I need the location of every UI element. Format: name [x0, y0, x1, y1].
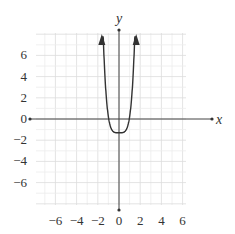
svg-text:−2: −2	[91, 213, 105, 228]
svg-text:−2: −2	[13, 132, 27, 147]
axes	[28, 28, 213, 211]
tick-labels: −6−4−202466420−2−4−6	[13, 47, 186, 228]
y-axis-label: y	[114, 11, 123, 26]
svg-text:−6: −6	[13, 175, 27, 190]
function-graph: −6−4−202466420−2−4−6 x y	[0, 0, 235, 234]
svg-text:−4: −4	[70, 213, 84, 228]
svg-text:6: 6	[179, 213, 186, 228]
svg-text:0: 0	[21, 111, 28, 126]
svg-text:−4: −4	[13, 153, 27, 168]
svg-text:−6: −6	[48, 213, 62, 228]
svg-text:4: 4	[21, 69, 28, 84]
svg-text:4: 4	[158, 213, 165, 228]
svg-text:2: 2	[21, 90, 28, 105]
svg-text:0: 0	[116, 213, 123, 228]
svg-text:2: 2	[137, 213, 144, 228]
svg-text:6: 6	[21, 47, 28, 62]
x-axis-label: x	[215, 112, 223, 127]
